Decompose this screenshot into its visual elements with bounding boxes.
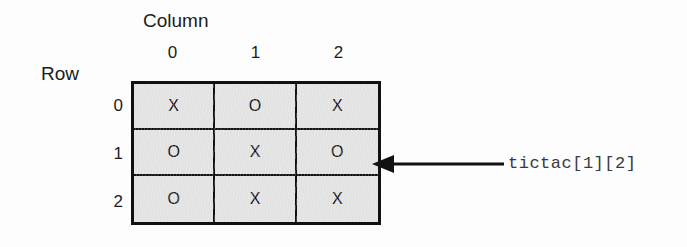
cell-1-0: O bbox=[134, 130, 215, 176]
cell-2-0: O bbox=[134, 176, 215, 222]
column-tick-2: 2 bbox=[297, 44, 380, 61]
column-tick-1: 1 bbox=[214, 44, 297, 61]
row-axis-caption: Row bbox=[41, 64, 79, 83]
array-index-diagram: Column Row 0 1 2 0 1 2 X O X O X O O X X… bbox=[0, 0, 687, 247]
column-tick-0: 0 bbox=[131, 44, 214, 61]
tictac-grid: X O X O X O O X X bbox=[131, 81, 381, 225]
row-tick-1: 1 bbox=[103, 145, 123, 162]
cell-2-1: X bbox=[215, 176, 296, 222]
cell-0-2: X bbox=[297, 84, 378, 130]
callout-label: tictac[1][2] bbox=[508, 155, 636, 172]
left-arrow-icon bbox=[370, 150, 505, 180]
row-tick-0: 0 bbox=[103, 97, 123, 114]
cell-2-2: X bbox=[297, 176, 378, 222]
cell-1-1: X bbox=[215, 130, 296, 176]
cell-0-1: O bbox=[215, 84, 296, 130]
cell-0-0: X bbox=[134, 84, 215, 130]
cell-1-2: O bbox=[297, 130, 378, 176]
row-tick-2: 2 bbox=[103, 193, 123, 210]
column-axis-caption: Column bbox=[143, 11, 208, 30]
